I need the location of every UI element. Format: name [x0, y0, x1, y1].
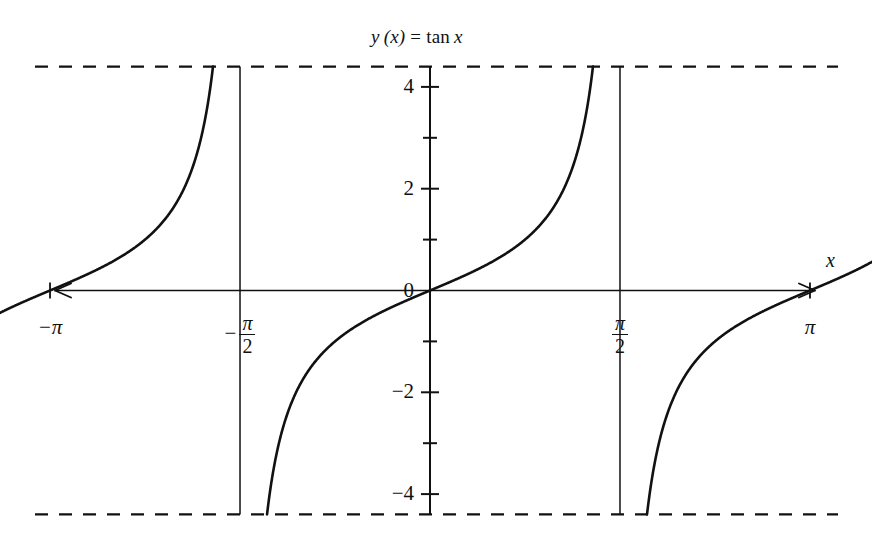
plot-canvas	[0, 0, 872, 545]
title-arg: (x)	[384, 26, 406, 47]
x-tick-label: π2	[574, 313, 666, 356]
title-y: y	[371, 26, 380, 47]
title-equals: =	[410, 26, 421, 47]
y-tick-label: −4	[368, 483, 414, 504]
title-variable: x	[454, 26, 463, 47]
x-tick-label: −π	[4, 317, 96, 338]
y-tick-label: 2	[368, 178, 414, 199]
fraction-denominator: 2	[239, 335, 255, 356]
x-tick-fraction: π2	[239, 313, 255, 356]
y-tick-label: 0	[368, 280, 414, 301]
chart-title: y (x) = tan x	[371, 27, 463, 46]
tan-function-figure: y (x) = tan x x 420−2−4 −2π−3π2−π−π2π2π3…	[0, 0, 872, 545]
fraction-numerator: π	[612, 313, 628, 335]
x-axis-label: x	[826, 250, 835, 270]
fraction-numerator: π	[239, 313, 255, 335]
x-tick-label: π	[764, 317, 856, 338]
x-tick-label: −π2	[194, 313, 286, 356]
y-tick-label: 4	[368, 76, 414, 97]
title-function-name: tan	[426, 26, 450, 47]
x-tick-text: π	[805, 315, 816, 339]
x-tick-minus-sign: −	[225, 323, 237, 344]
y-tick-label: −2	[368, 381, 414, 402]
fraction-denominator: 2	[612, 335, 628, 356]
x-tick-text: −π	[38, 315, 63, 339]
x-tick-fraction: π2	[612, 313, 628, 356]
